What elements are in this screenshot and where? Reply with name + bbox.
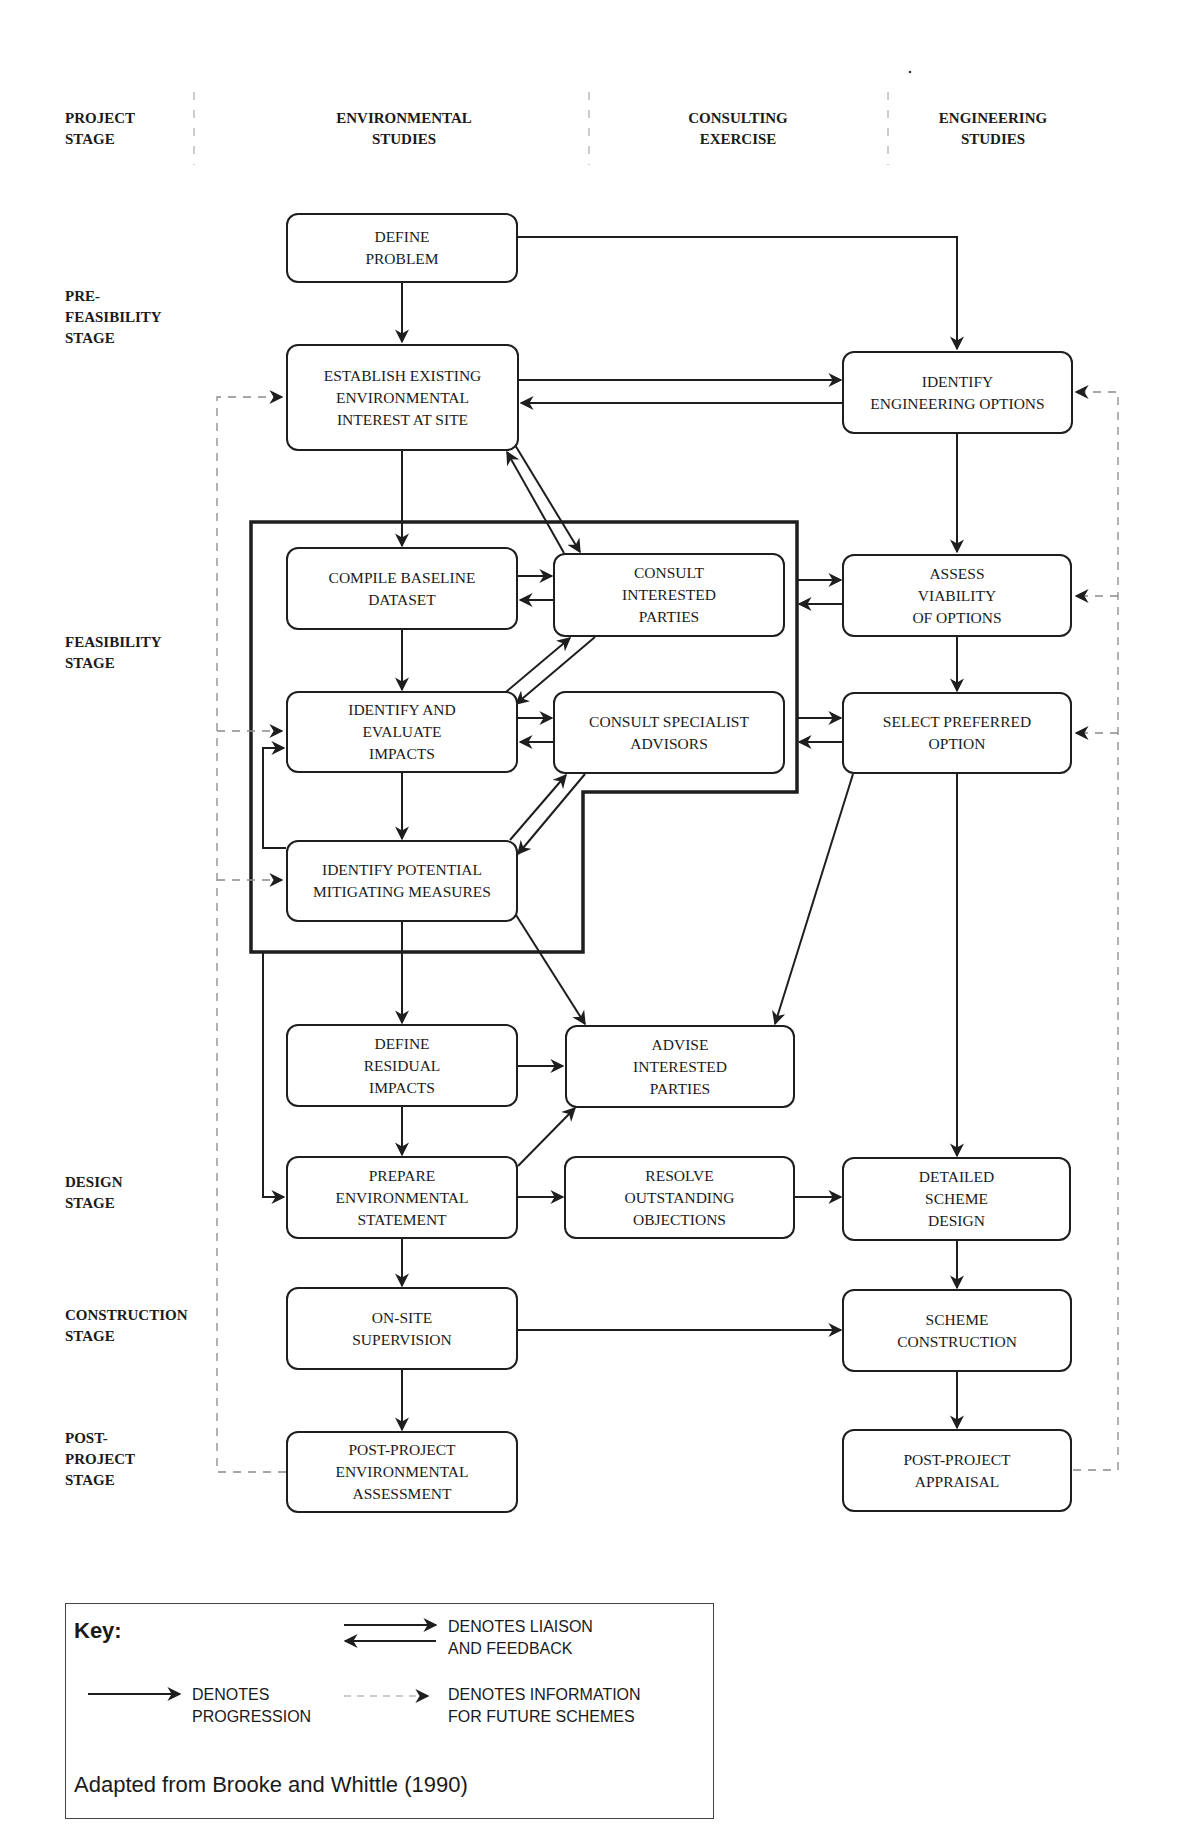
legend-title: Key: [74, 1618, 122, 1644]
legend-liaison-label: DENOTES LIAISON AND FEEDBACK [448, 1616, 593, 1660]
node-post-project-environmental-assessment: POST-PROJECT ENVIRONMENTAL ASSESSMENT [286, 1431, 518, 1513]
header-consulting-exercise: CONSULTING EXERCISE [688, 108, 787, 150]
node-prepare-environmental-statement: PREPARE ENVIRONMENTAL STATEMENT [286, 1156, 518, 1239]
node-onsite-supervision: ON-SITE SUPERVISION [286, 1287, 518, 1370]
stage-design: DESIGN STAGE [65, 1172, 123, 1214]
stage-construction: CONSTRUCTION STAGE [65, 1305, 188, 1347]
node-consult-interested-parties: CONSULT INTERESTED PARTIES [553, 553, 785, 637]
legend-progression-label: DENOTES PROGRESSION [192, 1684, 311, 1728]
node-resolve-outstanding-objections: RESOLVE OUTSTANDING OBJECTIONS [564, 1156, 795, 1239]
node-select-preferred-option: SELECT PREFERRED OPTION [842, 692, 1072, 774]
node-detailed-scheme-design: DETAILED SCHEME DESIGN [842, 1157, 1071, 1241]
legend-key: Key: DENOTES LIAISON AND FEEDBACK DENOTE… [65, 1603, 714, 1819]
node-advise-interested-parties: ADVISE INTERESTED PARTIES [565, 1025, 795, 1108]
legend-information-label: DENOTES INFORMATION FOR FUTURE SCHEMES [448, 1684, 641, 1728]
node-identify-engineering-options: IDENTIFY ENGINEERING OPTIONS [842, 351, 1073, 434]
legend-source-citation: Adapted from Brooke and Whittle (1990) [74, 1772, 468, 1798]
node-compile-baseline-dataset: COMPILE BASELINE DATASET [286, 547, 518, 630]
header-engineering-studies: ENGINEERING STUDIES [939, 108, 1047, 150]
node-identify-mitigating-measures: IDENTIFY POTENTIAL MITIGATING MEASURES [286, 840, 518, 922]
header-environmental-studies: ENVIRONMENTAL STUDIES [336, 108, 472, 150]
stage-post-project: POST- PROJECT STAGE [65, 1428, 135, 1491]
node-post-project-appraisal: POST-PROJECT APPRAISAL [842, 1429, 1072, 1512]
node-scheme-construction: SCHEME CONSTRUCTION [842, 1289, 1072, 1372]
stage-feasibility: FEASIBILITY STAGE [65, 632, 162, 674]
flow-connectors [0, 0, 1177, 1847]
node-identify-evaluate-impacts: IDENTIFY AND EVALUATE IMPACTS [286, 691, 518, 773]
node-establish-existing-interest: ESTABLISH EXISTING ENVIRONMENTAL INTERES… [286, 344, 519, 451]
node-assess-viability: ASSESS VIABILITY OF OPTIONS [842, 554, 1072, 637]
node-define-problem: DEFINE PROBLEM [286, 213, 518, 283]
header-project-stage: PROJECT STAGE [65, 108, 135, 150]
stage-pre-feasibility: PRE- FEASIBILITY STAGE [65, 286, 162, 349]
node-define-residual-impacts: DEFINE RESIDUAL IMPACTS [286, 1024, 518, 1107]
node-consult-specialist-advisors: CONSULT SPECIALIST ADVISORS [553, 691, 785, 774]
